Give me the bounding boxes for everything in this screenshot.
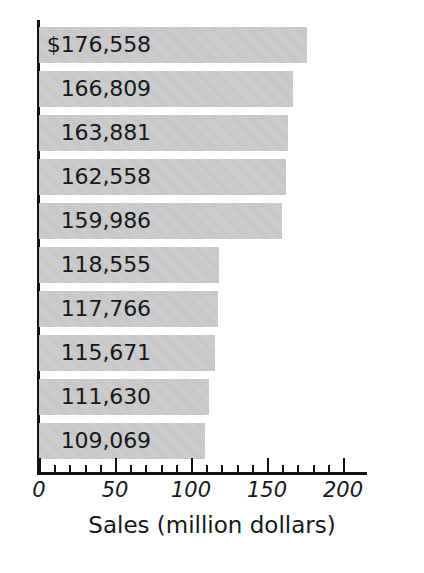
x-axis-minor-tick <box>100 465 102 474</box>
x-axis-major-tick <box>115 458 117 474</box>
x-axis-minor-tick <box>206 465 208 474</box>
x-axis-minor-tick <box>221 465 223 474</box>
bar-value-label: 166,809 <box>39 71 151 107</box>
x-axis-minor-tick <box>237 465 239 474</box>
x-axis-tick-label: 150 <box>247 478 287 502</box>
x-axis-tick-label: 50 <box>102 478 129 502</box>
x-axis-minor-tick <box>161 465 163 474</box>
x-axis-minor-tick <box>252 465 254 474</box>
x-axis-minor-tick <box>145 465 147 474</box>
x-axis-minor-tick <box>85 465 87 474</box>
x-axis-minor-tick <box>130 465 132 474</box>
x-axis-major-tick <box>39 458 41 474</box>
x-axis-tick-label: 0 <box>32 478 45 502</box>
bar-value-label: 115,671 <box>39 335 151 371</box>
x-axis-major-tick <box>343 458 345 474</box>
bar-value-label: 162,558 <box>39 159 151 195</box>
bar-value-label: $176,558 <box>39 27 151 63</box>
bar-value-label: 159,986 <box>39 203 151 239</box>
x-axis-title: Sales (million dollars) <box>0 512 424 538</box>
bar-value-label: 163,881 <box>39 115 151 151</box>
x-axis-minor-tick <box>282 465 284 474</box>
bar-value-label: 118,555 <box>39 247 151 283</box>
x-axis-tick-label: 100 <box>171 478 211 502</box>
horizontal-bar-chart: $176,558166,809163,881162,558159,986118,… <box>0 0 424 573</box>
x-axis-minor-tick <box>69 465 71 474</box>
x-axis-minor-tick <box>297 465 299 474</box>
x-axis-minor-tick <box>54 465 56 474</box>
bar-value-label: 117,766 <box>39 291 151 327</box>
plot-area: $176,558166,809163,881162,558159,986118,… <box>0 0 424 573</box>
x-axis-tick-label: 200 <box>323 478 363 502</box>
x-axis-minor-tick <box>313 465 315 474</box>
bar-value-label: 111,630 <box>39 379 151 415</box>
bar-value-label: 109,069 <box>39 423 151 459</box>
x-axis-minor-tick <box>328 465 330 474</box>
x-axis-minor-tick <box>176 465 178 474</box>
bars-layer: $176,558166,809163,881162,558159,986118,… <box>0 0 424 473</box>
x-axis-major-tick <box>267 458 269 474</box>
x-axis-major-tick <box>191 458 193 474</box>
